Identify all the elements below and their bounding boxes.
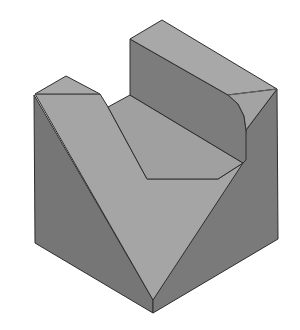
diagram-canvas — [0, 0, 300, 330]
left-pillar-top-face — [35, 76, 100, 94]
isometric-block-svg — [0, 0, 300, 330]
